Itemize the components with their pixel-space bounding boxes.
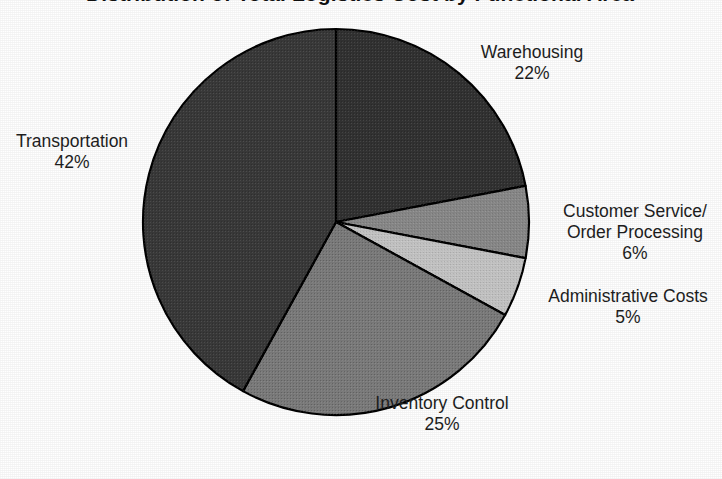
slice-label-inventory-control-value: 25% xyxy=(338,414,546,435)
slice-label-transportation-value: 42% xyxy=(2,152,142,173)
slice-label-transportation: Transportation 42% xyxy=(2,131,142,173)
slice-label-warehousing: Warehousing 22% xyxy=(452,42,612,84)
slice-label-transportation-name: Transportation xyxy=(2,131,142,152)
slice-label-customer-service: Customer Service/ Order Processing 6% xyxy=(548,201,722,264)
slice-label-warehousing-name: Warehousing xyxy=(452,42,612,63)
slice-label-inventory-control-name: Inventory Control xyxy=(338,393,546,414)
slice-label-customer-service-line2: Order Processing xyxy=(548,222,722,243)
slice-label-customer-service-line1: Customer Service/ xyxy=(548,201,722,222)
slice-label-customer-service-value: 6% xyxy=(548,243,722,264)
slice-label-inventory-control: Inventory Control 25% xyxy=(338,393,546,435)
slice-label-administrative-costs: Administrative Costs 5% xyxy=(534,286,722,328)
slice-label-administrative-costs-value: 5% xyxy=(534,307,722,328)
slice-label-administrative-costs-name: Administrative Costs xyxy=(534,286,722,307)
pie-chart-figure: Distribution of Total Logistics Cost by … xyxy=(0,0,722,479)
slice-label-warehousing-value: 22% xyxy=(452,63,612,84)
